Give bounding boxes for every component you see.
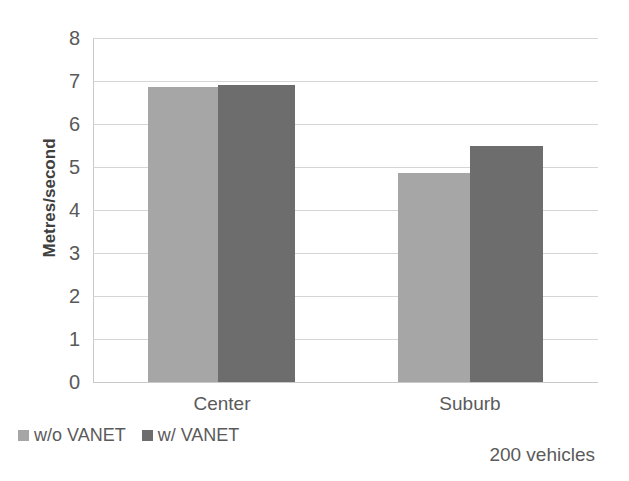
gridline-7 [93,81,598,82]
bar-suburb-wo-vanet [398,173,470,382]
legend: w/o VANET w/ VANET [18,423,239,447]
gridline-0-baseline [93,382,598,383]
legend-swatch-icon-wo-vanet [18,430,29,441]
x-axis-category-labels: Center Suburb [0,392,629,420]
y-tick-1: 1 [40,329,80,349]
legend-label-wo-vanet: w/o VANET [34,425,126,445]
y-axis-title: Metres/second [40,123,60,273]
legend-entry-w-vanet: w/ VANET [142,425,240,445]
bar-center-w-vanet [218,85,295,382]
y-tick-0: 0 [40,372,80,392]
y-tick-7: 7 [40,71,80,91]
bar-suburb-w-vanet [470,146,543,382]
y-tick-8: 8 [40,28,80,48]
plot-area [93,38,598,382]
bar-center-wo-vanet [148,87,218,382]
legend-swatch-icon-w-vanet [142,430,153,441]
y-tick-2: 2 [40,286,80,306]
category-label-center: Center [152,392,292,416]
legend-entry-wo-vanet: w/o VANET [18,425,126,445]
chart-caption: 200 vehicles [489,443,595,467]
gridline-8 [93,38,598,39]
legend-label-w-vanet: w/ VANET [158,425,240,445]
category-label-suburb: Suburb [400,392,540,416]
bar-chart-figure: 8 7 6 5 4 3 2 1 0 Metres/second Center S… [0,0,629,481]
